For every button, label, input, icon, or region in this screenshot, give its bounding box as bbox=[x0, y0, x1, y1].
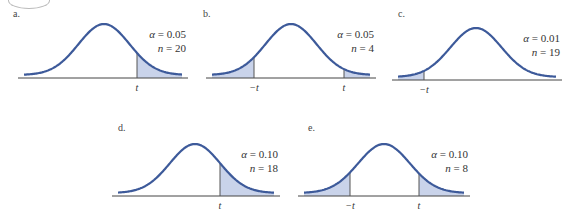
alpha-value: α = 0.05 bbox=[337, 28, 374, 40]
sample-size: n = 20 bbox=[158, 42, 186, 54]
critical-value-label: −t bbox=[345, 200, 355, 211]
alpha-value: α = 0.10 bbox=[431, 148, 468, 160]
panel-c: c.α = 0.01n = 19−t bbox=[386, 8, 571, 108]
sample-size: n = 19 bbox=[532, 46, 560, 58]
panel-a: a.α = 0.05n = 20t bbox=[8, 8, 188, 108]
sample-size: n = 8 bbox=[445, 162, 468, 174]
critical-value-label: t bbox=[343, 82, 346, 93]
alpha-value: α = 0.01 bbox=[523, 32, 560, 44]
critical-value-label: t bbox=[418, 200, 421, 211]
panel-d: d.α = 0.10n = 18t bbox=[108, 122, 288, 222]
panel-b: b.α = 0.05n = 4−tt bbox=[198, 8, 378, 108]
t-distribution-curve bbox=[386, 8, 571, 108]
t-distribution-curve bbox=[198, 8, 378, 108]
critical-value-label: −t bbox=[419, 84, 429, 95]
sample-size: n = 18 bbox=[250, 162, 278, 174]
t-distribution-curve bbox=[8, 8, 188, 108]
critical-value-label: t bbox=[136, 82, 139, 93]
sample-size: n = 4 bbox=[351, 42, 374, 54]
critical-value-label: −t bbox=[249, 82, 259, 93]
alpha-value: α = 0.05 bbox=[149, 28, 186, 40]
panel-e: e.α = 0.10n = 8−tt bbox=[298, 122, 478, 222]
critical-value-label: t bbox=[219, 200, 222, 211]
alpha-value: α = 0.10 bbox=[241, 148, 278, 160]
